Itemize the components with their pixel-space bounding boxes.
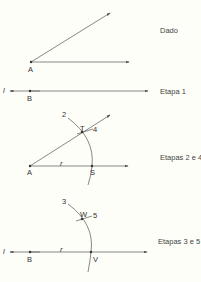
label-steps-3-5: Etapas 3 e 5 [158, 237, 200, 246]
line-label-l1: l [3, 86, 5, 95]
point-B-step3: B [27, 255, 32, 264]
step-number-3: 3 [62, 197, 66, 206]
given-upper-ray [31, 13, 110, 62]
point-V: V [93, 255, 98, 264]
point-A-step2: A [27, 168, 32, 177]
point-W: W [80, 210, 87, 219]
step-number-5: 5 [93, 211, 97, 220]
label-step1: Etapa 1 [160, 87, 186, 96]
point-B-step1: B [27, 94, 32, 103]
point-A-given: A [28, 65, 33, 74]
ray-AT [30, 115, 110, 166]
point-S: S [90, 168, 95, 177]
line-label-l2: l [3, 247, 5, 256]
step-number-2: 2 [62, 110, 66, 119]
label-given: Dado [160, 26, 178, 35]
label-steps-2-4: Etapas 2 e 4 [160, 153, 201, 162]
point-T: T [80, 124, 85, 133]
radius-r1: r [60, 159, 63, 168]
step-number-4: 4 [93, 125, 97, 134]
radius-r2: r [60, 245, 63, 254]
